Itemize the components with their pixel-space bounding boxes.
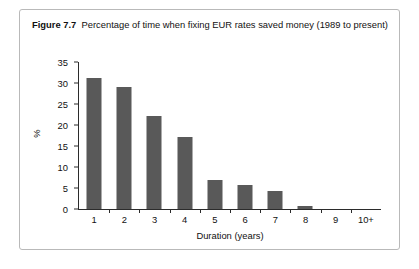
bar <box>117 87 132 209</box>
bar-slot <box>351 62 381 209</box>
bar <box>177 137 192 209</box>
figure-container: Figure 7.7 Percentage of time when fixin… <box>19 9 400 250</box>
y-axis-tick-mark <box>74 104 78 105</box>
x-axis-tick-mark <box>109 209 110 213</box>
x-axis-tick-mark <box>200 209 201 213</box>
y-axis-tick-label: 15 <box>58 141 68 152</box>
figure-caption: Figure 7.7 Percentage of time when fixin… <box>32 18 388 31</box>
y-axis-tick-label: 20 <box>58 120 68 131</box>
x-axis-tick-label: 6 <box>242 214 247 225</box>
bar-slot <box>290 62 320 209</box>
x-axis-tick-label: 2 <box>122 214 127 225</box>
y-axis-tick-mark <box>74 188 78 189</box>
x-axis-tick-label: 5 <box>212 214 217 225</box>
x-axis-title: Duration (years) <box>79 230 381 241</box>
bar-slot <box>109 62 139 209</box>
y-axis-tick-mark <box>74 125 78 126</box>
y-axis-tick-label: 10 <box>58 162 68 173</box>
bar-slot <box>260 62 290 209</box>
figure-caption-text: Percentage of time when fixing EUR rates… <box>82 19 388 30</box>
bar <box>87 78 102 209</box>
x-axis-tick-label: 1 <box>91 214 96 225</box>
bar-slot <box>200 62 230 209</box>
x-axis-tick-label: 10+ <box>358 214 374 225</box>
bar <box>238 185 253 209</box>
y-axis-tick-label: 30 <box>58 78 68 89</box>
y-axis-tick-label: 25 <box>58 99 68 110</box>
y-axis-tick-label: 0 <box>63 204 68 215</box>
x-axis-tick-mark <box>351 209 352 213</box>
y-axis-tick-labels: 05101520253035 <box>46 56 74 216</box>
bar <box>147 116 162 209</box>
x-axis-tick-label: 8 <box>303 214 308 225</box>
x-axis-tick-mark <box>290 209 291 213</box>
x-axis-tick-label: 4 <box>182 214 187 225</box>
x-axis-tick-mark <box>170 209 171 213</box>
x-axis-tick-mark <box>321 209 322 213</box>
bar-slot <box>139 62 169 209</box>
bars-layer <box>79 62 381 209</box>
bar-slot <box>321 62 351 209</box>
bar-chart: % 05101520253035 12345678910+ Duration (… <box>20 56 401 250</box>
y-axis-tick-mark <box>74 62 78 63</box>
x-axis-tick-label: 3 <box>152 214 157 225</box>
y-axis-tick-label: 35 <box>58 57 68 68</box>
y-axis-tick-label: 5 <box>63 183 68 194</box>
y-axis-tick-mark <box>74 146 78 147</box>
y-axis-tick-mark <box>74 209 78 210</box>
y-axis-tick-mark <box>74 167 78 168</box>
x-axis-tick-labels: 12345678910+ <box>79 214 381 228</box>
bar-slot <box>79 62 109 209</box>
x-axis-tick-label: 9 <box>333 214 338 225</box>
x-axis-tick-mark <box>230 209 231 213</box>
x-axis-tick-label: 7 <box>273 214 278 225</box>
y-axis-tick-mark <box>74 83 78 84</box>
bar-slot <box>230 62 260 209</box>
bar <box>268 191 283 209</box>
x-axis-tick-mark <box>139 209 140 213</box>
x-axis-tick-mark <box>260 209 261 213</box>
figure-label: Figure 7.7 <box>32 19 76 30</box>
bar-slot <box>170 62 200 209</box>
y-axis-title: % <box>31 129 42 137</box>
bar <box>207 180 222 209</box>
